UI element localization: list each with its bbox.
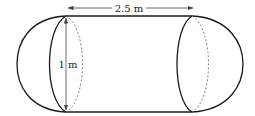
right-end-front-arc — [177, 16, 192, 112]
right-end-back-arc — [192, 16, 209, 112]
capsule-diagram: 2.5 m 1 m — [0, 0, 255, 116]
right-hemisphere — [192, 16, 243, 112]
diameter-label: 1 m — [58, 59, 78, 70]
length-label: 2.5 m — [115, 3, 144, 14]
